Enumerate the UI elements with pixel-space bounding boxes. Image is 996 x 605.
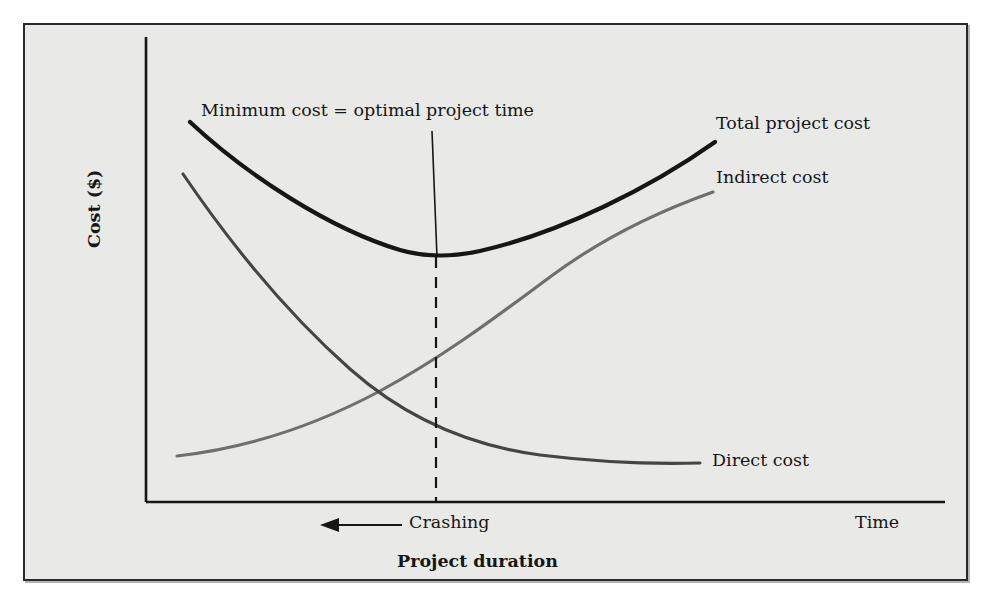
minimum-cost-annotation-text: Minimum cost = optimal project time bbox=[201, 100, 534, 120]
series-line-total-project-cost bbox=[190, 122, 715, 255]
series-line-direct-cost bbox=[183, 174, 700, 463]
series-label-indirect-cost: Indirect cost bbox=[716, 167, 828, 187]
chart-plot-area bbox=[0, 0, 996, 605]
x-axis-end-label-time: Time bbox=[855, 512, 899, 532]
annotation-leader-line bbox=[432, 131, 437, 257]
series-line-indirect-cost bbox=[177, 192, 713, 456]
series-label-direct-cost: Direct cost bbox=[712, 450, 809, 470]
crashing-label: Crashing bbox=[409, 512, 490, 532]
series-label-total-project-cost: Total project cost bbox=[716, 113, 870, 133]
x-axis-title: Project duration bbox=[397, 551, 558, 571]
y-axis-title: Cost ($) bbox=[84, 170, 104, 248]
crashing-arrow-head bbox=[320, 518, 339, 532]
chart-figure: Minimum cost = optimal project time Tota… bbox=[0, 0, 996, 605]
